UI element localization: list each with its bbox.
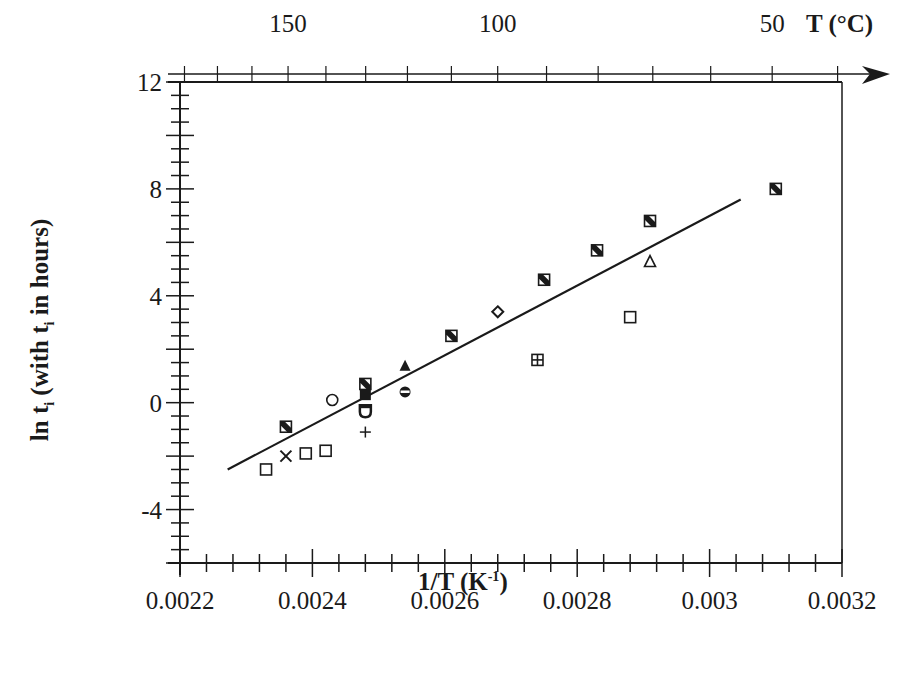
data-point-diamond — [492, 306, 503, 317]
data-point-square-filled — [360, 389, 371, 400]
top-tick-label: 50 — [760, 10, 785, 37]
plot-frame — [168, 82, 842, 575]
x-axis-title-main: 1/T (K — [418, 568, 488, 595]
x-tick-label: 0.0022 — [146, 587, 215, 614]
y-tick-label: 0 — [150, 390, 163, 417]
data-point-square — [261, 464, 272, 475]
x-axis-title-exponent: -1 — [488, 569, 500, 584]
data-point-square-hatched — [280, 421, 291, 432]
data-point-square — [300, 448, 311, 459]
top-axis-title: T (°C) — [806, 10, 873, 38]
top-temperature-axis: 15010050 — [168, 10, 890, 84]
x-tick-label: 0.0024 — [278, 587, 347, 614]
data-point-square — [320, 445, 331, 456]
y-tick-label: 4 — [150, 283, 163, 310]
data-point-shield — [360, 405, 371, 417]
data-point-square-plus — [532, 354, 543, 365]
top-tick-label: 150 — [269, 10, 307, 37]
fit-line — [228, 200, 741, 470]
data-point-circle — [327, 394, 338, 405]
top-tick-label: 100 — [479, 10, 517, 37]
data-point-x — [280, 451, 291, 462]
x-axis-title-close: ) — [499, 568, 507, 595]
x-axis: 0.00220.00240.00260.00280.0030.0032 — [146, 549, 877, 614]
x-tick-label: 0.0028 — [543, 587, 612, 614]
x-axis-title: 1/T (K-1) — [418, 568, 508, 596]
data-point-square-hatched — [592, 245, 603, 256]
data-point-square-hatched — [645, 215, 656, 226]
y-title-sub: i — [42, 402, 57, 406]
y-title-part: (with t — [26, 325, 53, 401]
data-point-triangle-filled — [400, 360, 411, 371]
y-axis-title: ln ti (with ti in hours) — [26, 219, 58, 441]
y-tick-label: 12 — [137, 69, 162, 96]
arrow-head-icon — [862, 66, 890, 84]
x-tick-label: 0.003 — [681, 587, 737, 614]
data-point-square-hatched — [360, 378, 371, 389]
data-point-plus — [360, 427, 371, 438]
y-tick-label: 8 — [150, 176, 163, 203]
data-point-square-hatched — [446, 330, 457, 341]
regression-line — [228, 200, 741, 470]
data-point-circle-half — [400, 386, 411, 397]
x-tick-label: 0.0032 — [808, 587, 877, 614]
y-axis: 12840-4 — [137, 69, 194, 563]
data-points — [261, 183, 782, 475]
y-title-sub: i — [42, 322, 57, 326]
y-tick-label: -4 — [141, 497, 162, 524]
data-point-square-hatched — [770, 183, 781, 194]
data-point-square — [625, 312, 636, 323]
data-point-triangle — [645, 256, 656, 267]
y-title-part: in hours) — [26, 219, 53, 322]
y-title-part: ln t — [26, 406, 53, 441]
data-point-square-hatched — [539, 274, 550, 285]
